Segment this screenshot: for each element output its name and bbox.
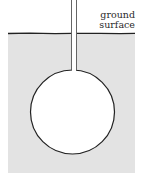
pipe-opening [72,66,76,72]
spherical-cavity [31,70,115,154]
ground-surface-label-line2: surface [99,20,135,30]
pipe-interior [72,0,77,72]
